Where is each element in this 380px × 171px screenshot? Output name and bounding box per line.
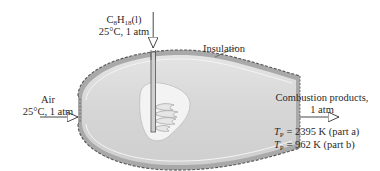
exhaust-name: Combustion products, xyxy=(268,92,376,104)
insulation-label: Insulation xyxy=(203,43,245,55)
air-conditions: 25°C, 1 atm xyxy=(14,106,82,118)
fuel-conditions: 25°C, 1 atm xyxy=(98,26,150,38)
exhaust-pressure: 1 atm xyxy=(268,104,376,116)
air-name: Air xyxy=(14,94,82,106)
fuel-label: C8H18(l) 25°C, 1 atm xyxy=(98,14,150,38)
fuel-injector xyxy=(151,12,156,132)
combustion-chamber-diagram: C8H18(l) 25°C, 1 atm Insulation Air 25°C… xyxy=(0,0,380,171)
result-part-a: TP = 2395 K (part a) xyxy=(274,126,359,138)
air-label: Air 25°C, 1 atm xyxy=(14,94,82,118)
fuel-species: C8H18(l) xyxy=(98,14,150,26)
exhaust-label: Combustion products, 1 atm xyxy=(268,92,376,116)
result-part-b: TP = 962 K (part b) xyxy=(274,139,355,151)
